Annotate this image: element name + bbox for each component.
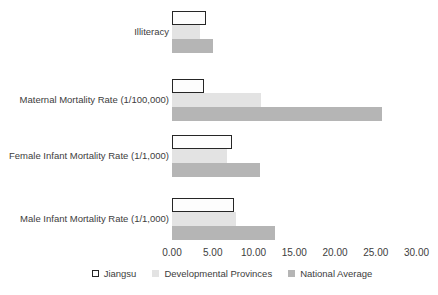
bar-national-average-illiteracy xyxy=(172,39,213,53)
bar-jiangsu-maternal-mortality-rate-1-100-000 xyxy=(172,79,204,93)
x-tick-label-4: 20.00 xyxy=(315,247,355,258)
x-tick-label-1: 5.00 xyxy=(193,247,233,258)
bar-developmental-provinces-maternal-mortality-rate-1-100-000 xyxy=(172,93,261,107)
category-label-male-infant-mortality-rate-1-1-000: Male Infant Mortality Rate (1/1,000) xyxy=(0,213,169,225)
bar-developmental-provinces-female-infant-mortality-rate-1-1-000 xyxy=(172,149,227,163)
legend-swatch-developmental-provinces xyxy=(152,270,159,277)
legend: JiangsuDevelopmental ProvincesNational A… xyxy=(26,268,438,279)
x-tick-label-0: 0.00 xyxy=(152,247,192,258)
category-label-illiteracy: Illiteracy xyxy=(0,26,169,38)
category-label-female-infant-mortality-rate-1-1-000: Female Infant Mortality Rate (1/1,000) xyxy=(0,150,169,162)
bar-national-average-male-infant-mortality-rate-1-1-000 xyxy=(172,226,275,240)
bar-chart: IlliteracyMaternal Mortality Rate (1/100… xyxy=(0,0,438,295)
legend-label-developmental-provinces: Developmental Provinces xyxy=(164,268,272,279)
legend-item-developmental-provinces: Developmental Provinces xyxy=(152,268,272,279)
bar-developmental-provinces-illiteracy xyxy=(172,25,200,39)
x-tick-label-6: 30.00 xyxy=(397,247,437,258)
bar-jiangsu-illiteracy xyxy=(172,11,206,25)
bar-national-average-female-infant-mortality-rate-1-1-000 xyxy=(172,163,260,177)
x-tick-label-3: 15.00 xyxy=(274,247,314,258)
legend-item-national-average: National Average xyxy=(288,268,372,279)
x-tick-label-2: 10.00 xyxy=(234,247,274,258)
bar-jiangsu-male-infant-mortality-rate-1-1-000 xyxy=(172,198,234,212)
category-label-maternal-mortality-rate-1-100-000: Maternal Mortality Rate (1/100,000) xyxy=(0,94,169,106)
bar-jiangsu-female-infant-mortality-rate-1-1-000 xyxy=(172,135,232,149)
legend-label-jiangsu: Jiangsu xyxy=(104,268,137,279)
legend-swatch-national-average xyxy=(288,270,295,277)
legend-label-national-average: National Average xyxy=(300,268,372,279)
legend-swatch-jiangsu xyxy=(92,270,99,277)
x-tick-label-5: 25.00 xyxy=(356,247,396,258)
legend-item-jiangsu: Jiangsu xyxy=(92,268,137,279)
bar-national-average-maternal-mortality-rate-1-100-000 xyxy=(172,107,382,121)
bar-developmental-provinces-male-infant-mortality-rate-1-1-000 xyxy=(172,212,236,226)
